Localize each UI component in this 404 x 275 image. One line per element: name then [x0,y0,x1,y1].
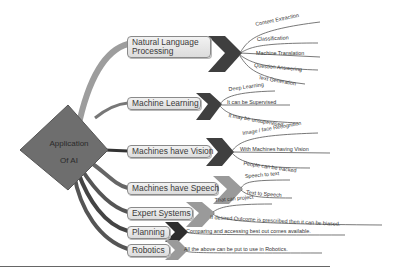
branch-node-vision[interactable]: Machines have Vision [127,145,211,158]
leaf-robotics-use: All the above can be put to use in Robot… [184,246,288,252]
branch-label: Machines have Vision [132,147,213,156]
connector-planning [78,172,128,231]
branch-node-robotics[interactable]: Robotics [127,244,170,257]
bottom-divider [0,266,330,267]
branch-node-nlp[interactable]: Natural Language Processing [127,36,211,58]
branch-node-machine-learning[interactable]: Machine Learning [127,97,201,110]
center-label-line2: Of AI [34,156,104,165]
connector-speech [90,162,128,188]
leaf-supervised: It can be Supervised [227,99,276,105]
branch-node-planning[interactable]: Planning [127,226,170,239]
branch-label: Robotics [132,246,165,255]
leaf-line [241,180,290,188]
branch-label: Expert Systems [132,209,191,218]
branch-node-expert-systems[interactable]: Expert Systems [127,207,193,220]
leaf-machine-translation: Machine Translation [256,50,304,56]
branch-label: Machines have Speech [132,184,219,193]
connector-nlp [78,44,128,128]
connector-ml [95,103,128,118]
branch-label: Machine Learning [132,99,199,108]
connector-expert [82,170,128,212]
leaf-machines-having-vision: With Machines having Vision [240,146,309,152]
center-label-line1: Application [34,139,104,148]
leaf-comparing-outcomes: Comparing and accessing best out comes a… [186,228,311,234]
branch-node-speech[interactable]: Machines have Speech [127,182,218,195]
leaf-line [232,152,330,153]
branch-label-line2: Processing [132,47,173,56]
chevron-nlp-icon [208,36,242,72]
leaf-line [213,204,272,212]
branch-label: Planning [132,228,165,237]
